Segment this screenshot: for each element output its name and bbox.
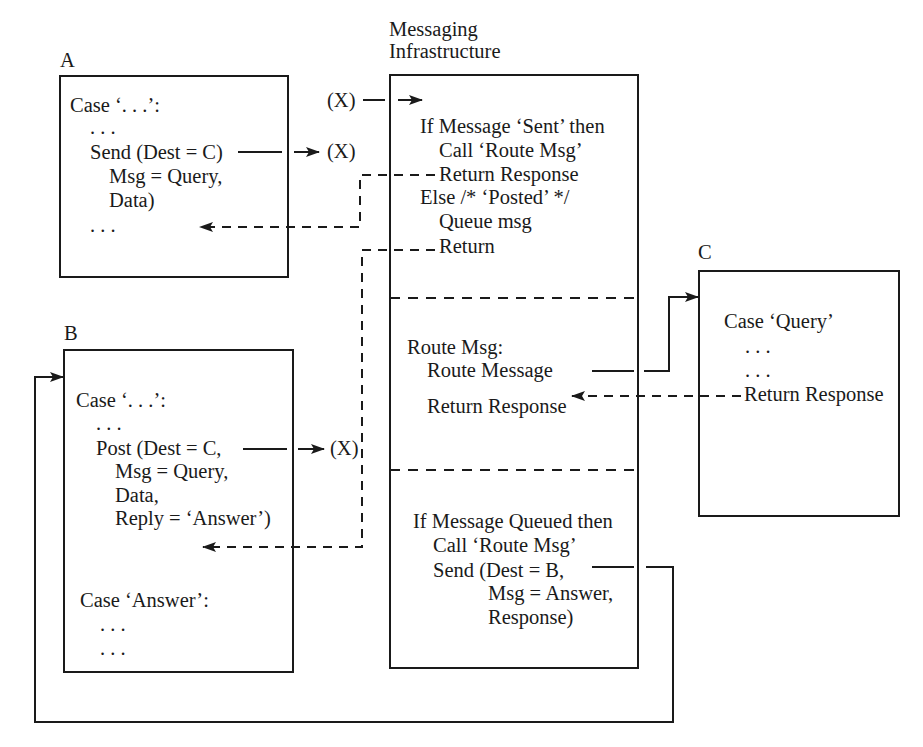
- box-a-line: . . .: [90, 214, 116, 236]
- return-arrow-b: [203, 250, 435, 547]
- box-b-line: Reply = ‘Answer’): [115, 507, 271, 530]
- route-message-arrow: [592, 297, 698, 371]
- box-a-line: . . .: [90, 116, 116, 138]
- process-b-box: Case ‘. . .’: . . . Post (Dest = C, Msg …: [64, 350, 293, 672]
- box-a-line: Case ‘. . .’:: [70, 94, 160, 116]
- entry-point-x-from-a: (X): [327, 140, 355, 163]
- messaging-s1-line: Return Response: [439, 163, 579, 186]
- messaging-s2-line: Route Message: [427, 359, 553, 382]
- box-b-line: Data,: [115, 484, 159, 506]
- messaging-s3-line: Response): [488, 606, 573, 629]
- box-c-line: . . .: [745, 359, 771, 381]
- messaging-infrastructure-label-line1: Messaging: [389, 18, 478, 41]
- box-b-line: Case ‘. . .’:: [76, 389, 166, 411]
- messaging-infrastructure-label-line2: Infrastructure: [389, 40, 501, 62]
- box-a-line: Msg = Query,: [109, 165, 222, 188]
- process-c-label: C: [698, 241, 712, 263]
- box-b-line: . . .: [100, 637, 126, 659]
- box-c-line: . . .: [745, 335, 771, 357]
- messaging-s2-line: Return Response: [427, 395, 567, 418]
- box-c-line: Return Response: [744, 383, 884, 406]
- entry-point-x-from-b: (X): [330, 437, 358, 460]
- box-a-line: Data): [109, 189, 155, 212]
- messaging-s1-line: Return: [439, 235, 495, 257]
- messaging-s2-line: Route Msg:: [407, 336, 503, 359]
- messaging-s3-line: Send (Dest = B,: [433, 559, 564, 582]
- box-b-line: . . .: [96, 412, 122, 434]
- process-a-label: A: [60, 49, 75, 71]
- box-a-line: Send (Dest = C): [90, 141, 223, 164]
- entry-point-x-top: (X): [327, 89, 355, 112]
- messaging-diagram: A B C Messaging Infrastructure Case ‘. .…: [0, 0, 923, 747]
- messaging-s1-line: If Message ‘Sent’ then: [420, 115, 605, 138]
- messaging-s1-line: Queue msg: [439, 210, 532, 233]
- return-response-arrow-a: [200, 175, 435, 227]
- box-c-line: Case ‘Query’: [724, 310, 834, 333]
- box-b-line: Post (Dest = C,: [96, 437, 221, 460]
- process-a-box: Case ‘. . .’: . . . Send (Dest = C) Msg …: [60, 76, 288, 277]
- process-c-box: Case ‘Query’ . . . . . . Return Response: [699, 271, 899, 516]
- messaging-s3-line: Msg = Answer,: [488, 582, 613, 605]
- box-b-line: Msg = Query,: [115, 460, 228, 483]
- send-answer-loop-arrow: [35, 377, 673, 722]
- box-b-line: Case ‘Answer’:: [80, 589, 209, 611]
- process-b-label: B: [64, 322, 78, 344]
- messaging-s1-line: Call ‘Route Msg’: [439, 139, 583, 162]
- box-b-line: . . .: [100, 613, 126, 635]
- messaging-s3-line: Call ‘Route Msg’: [433, 534, 577, 557]
- messaging-s1-line: Else /* ‘Posted’ */: [420, 186, 570, 208]
- messaging-s3-line: If Message Queued then: [413, 510, 613, 533]
